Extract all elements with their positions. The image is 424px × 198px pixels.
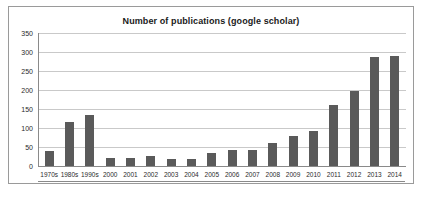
bar-slot xyxy=(385,33,405,166)
bar[interactable] xyxy=(106,158,115,166)
bar[interactable] xyxy=(45,151,54,166)
x-tick-label: 2012 xyxy=(344,168,364,182)
x-tick-label: 1990s xyxy=(80,168,100,182)
chart-frame: Number of publications (google scholar) … xyxy=(8,6,414,184)
bar-slot xyxy=(202,33,222,166)
x-tick-label: 2014 xyxy=(385,168,405,182)
bar[interactable] xyxy=(309,131,318,166)
y-tick-label: 250 xyxy=(21,68,33,75)
bar-slot xyxy=(222,33,242,166)
x-tick-label: 2011 xyxy=(324,168,344,182)
x-tick-label: 2009 xyxy=(283,168,303,182)
bar-slot xyxy=(324,33,344,166)
y-tick-label: 0 xyxy=(29,163,33,170)
x-tick-label: 2010 xyxy=(303,168,323,182)
bar-slot xyxy=(59,33,79,166)
x-tick-label: 1980s xyxy=(59,168,79,182)
bar-slot xyxy=(344,33,364,166)
y-tick-label: 200 xyxy=(21,87,33,94)
y-tick-label: 100 xyxy=(21,125,33,132)
bar[interactable] xyxy=(207,153,216,166)
y-tick-label: 350 xyxy=(21,30,33,37)
bar-slot xyxy=(80,33,100,166)
bar[interactable] xyxy=(228,150,237,166)
x-tick-label: 2007 xyxy=(242,168,262,182)
bar[interactable] xyxy=(65,122,74,166)
bar-series xyxy=(39,33,405,166)
x-tick-label: 2006 xyxy=(222,168,242,182)
bar-slot xyxy=(120,33,140,166)
bar-slot xyxy=(100,33,120,166)
bar-slot xyxy=(39,33,59,166)
y-tick-label: 50 xyxy=(25,144,33,151)
y-axis-tick-labels: 050100150200250300350 xyxy=(9,33,36,166)
bar[interactable] xyxy=(289,136,298,166)
bar[interactable] xyxy=(167,159,176,166)
bar-slot xyxy=(303,33,323,166)
y-tick-label: 150 xyxy=(21,106,33,113)
x-tick-label: 2002 xyxy=(141,168,161,182)
x-tick-label: 2003 xyxy=(161,168,181,182)
bar-slot xyxy=(364,33,384,166)
bar[interactable] xyxy=(268,143,277,166)
bar-slot xyxy=(263,33,283,166)
chart-title: Number of publications (google scholar) xyxy=(9,16,413,26)
x-tick-label: 2004 xyxy=(181,168,201,182)
bar-slot xyxy=(181,33,201,166)
bar[interactable] xyxy=(248,150,257,166)
bar[interactable] xyxy=(390,56,399,166)
x-tick-label: 2013 xyxy=(364,168,384,182)
bar[interactable] xyxy=(85,115,94,166)
x-tick-label: 1970s xyxy=(39,168,59,182)
bar[interactable] xyxy=(370,57,379,166)
bar-slot xyxy=(242,33,262,166)
bar[interactable] xyxy=(146,156,155,166)
bar[interactable] xyxy=(126,158,135,166)
bar[interactable] xyxy=(187,159,196,166)
x-tick-label: 2008 xyxy=(263,168,283,182)
y-tick-label: 300 xyxy=(21,49,33,56)
x-tick-label: 2000 xyxy=(100,168,120,182)
x-tick-label: 2005 xyxy=(202,168,222,182)
bar-slot xyxy=(283,33,303,166)
bar[interactable] xyxy=(329,105,338,166)
x-tick-label: 2001 xyxy=(120,168,140,182)
bar-slot xyxy=(141,33,161,166)
x-axis-tick-labels: 1970s1980s1990s2000200120022003200420052… xyxy=(39,168,405,182)
bar-slot xyxy=(161,33,181,166)
bar[interactable] xyxy=(350,91,359,166)
